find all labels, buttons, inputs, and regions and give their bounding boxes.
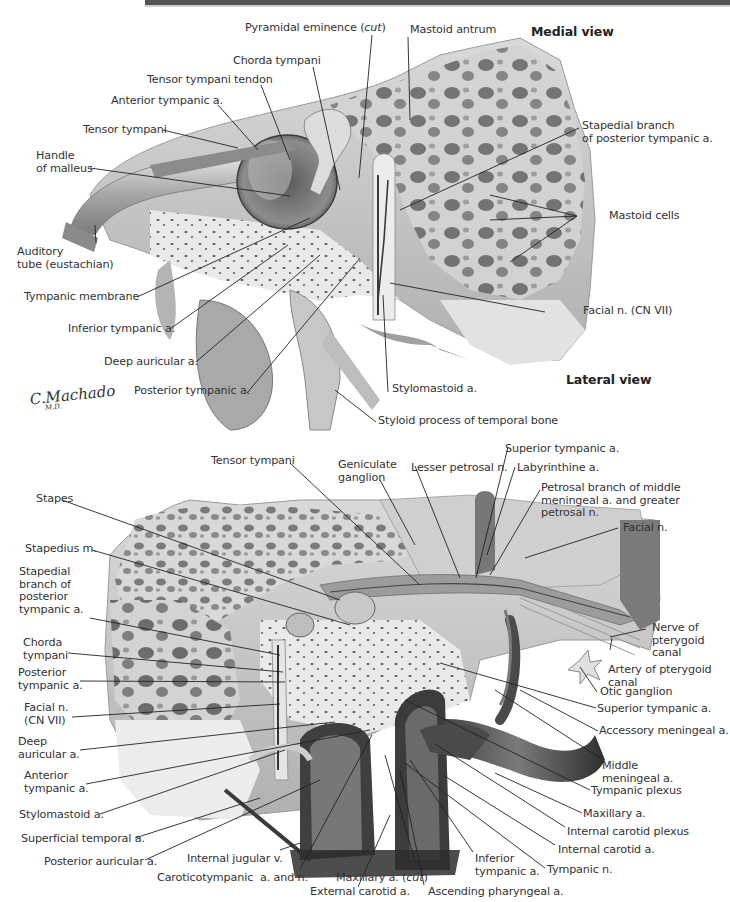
label-anterior-tympanic-a: Anterior tympanic a. <box>111 95 223 108</box>
anatomy-figure: Medial view Lateral view Pyramidal emine… <box>0 0 730 902</box>
label-external-carotid-a: External carotid a. <box>310 886 410 899</box>
label-otic-ganglion: Otic ganglion <box>600 686 672 699</box>
label-posterior-tympanic-a-top: Posterior tympanic a. <box>134 385 250 398</box>
label-chorda-tympani-bottom: Chorda tympani <box>23 637 68 662</box>
label-tensor-tympani-tendon: Tensor tympani tendon <box>147 74 273 87</box>
label-accessory-meningeal-a: Accessory meningeal a. <box>599 725 729 738</box>
label-maxillary-a-cut: Maxillary a. (cut) <box>336 872 428 885</box>
label-tensor-tympani-bottom: Tensor tympani <box>211 455 295 468</box>
label-internal-carotid-a: Internal carotid a. <box>558 844 655 857</box>
label-deep-auricular-a-bottom: Deep auricular a. <box>18 736 80 761</box>
label-superior-tympanic-a-upper: Superior tympanic a. <box>505 443 619 456</box>
label-middle-meningeal-a: Middle meningeal a. <box>602 760 673 785</box>
label-tympanic-membrane: Tympanic membrane <box>24 291 139 304</box>
label-superior-tympanic-a-lower: Superior tympanic a. <box>597 703 711 716</box>
label-stapedial-branch-bottom: Stapedial branch of posterior tympanic a… <box>19 566 84 616</box>
label-inferior-tympanic-a-top: Inferior tympanic a. <box>68 323 175 336</box>
label-facial-n-bottom: Facial n. <box>623 522 667 535</box>
label-ascending-pharyngeal-a: Ascending pharyngeal a. <box>428 886 563 899</box>
label-deep-auricular-a-top: Deep auricular a. <box>104 356 198 369</box>
label-chorda-tympani: Chorda tympani <box>233 55 321 68</box>
label-geniculate-ganglion: Geniculate ganglion <box>338 459 397 484</box>
label-stylomastoid-a-bottom: Stylomastoid a. <box>19 809 104 822</box>
label-posterior-tympanic-a-bottom: Posterior tympanic a. <box>18 667 83 692</box>
label-handle-of-malleus: Handle of malleus <box>36 150 93 175</box>
view-title-lateral: Lateral view <box>566 372 651 387</box>
label-stapedius-m: Stapedius m. <box>25 543 97 556</box>
label-lesser-petrosal-n: Lesser petrosal n. <box>411 462 507 475</box>
label-caroticotympanic: Caroticotympanic a. and n. <box>157 872 308 885</box>
label-pyramidal-eminence: Pyramidal eminence (cut) <box>245 22 386 35</box>
label-tympanic-n: Tympanic n. <box>547 864 612 877</box>
label-maxillary-a: Maxillary a. <box>583 808 646 821</box>
label-tensor-tympani: Tensor tympani <box>83 124 167 137</box>
label-superficial-temporal-a: Superficial temporal a. <box>21 833 145 846</box>
label-auditory-tube: Auditory tube (eustachian) <box>17 246 114 271</box>
label-stapedial-branch-top: Stapedial branch of posterior tympanic a… <box>582 120 713 145</box>
label-internal-carotid-plexus: Internal carotid plexus <box>567 826 689 839</box>
label-tympanic-plexus: Tympanic plexus <box>591 785 682 798</box>
label-styloid-process: Styloid process of temporal bone <box>378 415 558 428</box>
label-posterior-auricular-a: Posterior auricular a. <box>44 856 157 869</box>
label-anterior-tympanic-a-bottom: Anterior tympanic a. <box>24 770 89 795</box>
label-inferior-tympanic-a-bottom: Inferior tympanic a. <box>475 853 540 878</box>
label-stylomastoid-a-top: Stylomastoid a. <box>392 383 477 396</box>
label-mastoid-antrum: Mastoid antrum <box>410 24 496 37</box>
label-petrosal-branch: Petrosal branch of middle meningeal a. a… <box>541 482 680 520</box>
label-labyrinthine-a: Labyrinthine a. <box>517 462 599 475</box>
label-mastoid-cells: Mastoid cells <box>609 210 679 223</box>
label-internal-jugular-v: Internal jugular v. <box>187 853 283 866</box>
label-nerve-of-pterygoid-canal: Nerve of pterygoid canal <box>652 622 704 660</box>
label-facial-n-cn-vii-bottom: Facial n. (CN VII) <box>24 702 68 727</box>
label-facial-n-cn-vii-top: Facial n. (CN VII) <box>583 305 672 318</box>
view-title-medial: Medial view <box>531 24 614 39</box>
label-stapes: Stapes <box>36 493 73 506</box>
